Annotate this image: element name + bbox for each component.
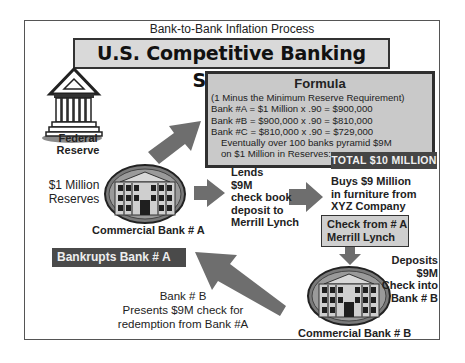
buys-line: XYZ Company <box>331 200 417 213</box>
deposits-line: Check into <box>368 279 438 292</box>
presents-line: Presents $9M check for <box>108 303 258 317</box>
deposits-line: Deposits $9M <box>368 254 438 279</box>
buys-line: in furniture from <box>331 188 417 201</box>
deposits-line: Bank # B <box>368 292 438 305</box>
presents-text: Bank # B Presents $9M check for redempti… <box>108 289 258 331</box>
check-box-line: Merrill Lynch <box>327 231 408 244</box>
presents-line: redemption from Bank #A <box>108 317 258 331</box>
bankrupts-badge: Bankrupts Bank # A <box>52 248 186 267</box>
buys-text: Buys $9 Million in furniture from XYZ Co… <box>331 175 417 213</box>
lends-line: deposit to <box>231 204 299 217</box>
federal-reserve-label: Federal Reserve <box>48 132 108 156</box>
bank-a-building-icon <box>105 165 185 223</box>
federal-reserve-label-line: Federal <box>48 132 108 144</box>
lends-line: Lends <box>231 166 299 179</box>
lends-line: Merrill Lynch <box>231 216 299 229</box>
arrow-down-icon <box>339 246 361 265</box>
lends-line: $9M <box>231 179 299 192</box>
arrow-right-icon <box>194 179 225 207</box>
reserves-amount: $1 Million <box>44 178 104 192</box>
lends-text: Lends $9M check book deposit to Merrill … <box>231 166 299 229</box>
formula-line: Bank #A = $1 Million x .90 = $900,000 <box>211 103 429 114</box>
formula-line: Bank #C = $810,000 x .90 = $729,000 <box>211 126 429 137</box>
arrow-up-right-icon <box>148 121 201 164</box>
deposits-text: Deposits $9M Check into Bank # B <box>368 254 438 304</box>
formula-line: Eventually over 100 banks pyramid $9M <box>211 137 429 148</box>
formula-line: Bank #B = $900,000 x .90 = $810,000 <box>211 115 429 126</box>
check-box: Check from # A Merrill Lynch <box>321 215 409 247</box>
presents-line: Bank # B <box>108 289 258 303</box>
reserves-text: Reserves <box>44 192 104 206</box>
check-box-line: Check from # A <box>327 218 408 231</box>
formula-line: (1 Minus the Minimum Reserve Requirement… <box>211 92 429 103</box>
formula-title: Formula <box>211 76 429 92</box>
bank-b-label: Commercial Bank # B <box>298 327 411 339</box>
federal-reserve-label-line: Reserve <box>48 144 108 156</box>
bank-a-label: Commercial Bank # A <box>92 224 205 236</box>
total-badge: TOTAL $10 MILLION <box>331 152 437 169</box>
lends-line: check book <box>231 191 299 204</box>
reserves-label: $1 Million Reserves <box>44 178 104 206</box>
buys-line: Buys $9 Million <box>331 175 417 188</box>
